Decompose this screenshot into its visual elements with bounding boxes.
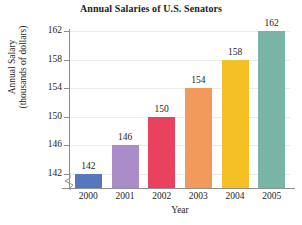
gridline (70, 174, 290, 175)
y-axis-tick-label: 158 (36, 54, 62, 64)
y-axis-tick-labels: 142146150154158162 (34, 0, 62, 225)
gridline (70, 31, 290, 32)
y-axis-tick (64, 174, 70, 175)
y-axis-tick (64, 60, 70, 61)
y-axis-tick-label: 154 (36, 82, 62, 92)
bar-value-label: 146 (106, 132, 145, 142)
y-axis-tick (64, 88, 70, 89)
bar (75, 174, 102, 188)
y-axis-tick-label: 162 (36, 25, 62, 35)
y-axis-label: Annual Salary (thousands of dollars) (0, 2, 36, 132)
x-axis-line (62, 188, 295, 189)
x-axis-tick-label: 2000 (69, 191, 108, 201)
y-axis-tick (64, 117, 70, 118)
bar-value-label: 158 (216, 47, 255, 57)
y-axis-tick-label: 146 (36, 139, 62, 149)
x-axis-tick-label: 2003 (179, 191, 218, 201)
bar (185, 88, 212, 188)
bar (148, 117, 175, 188)
gridline (70, 60, 290, 61)
bar (258, 31, 285, 188)
x-axis-tick-label: 2001 (106, 191, 145, 201)
bar-chart: Annual Salaries of U.S. Senators Annual … (0, 0, 302, 225)
plot-area: 142146150154158162 (70, 31, 290, 188)
x-axis-tick-label: 2002 (142, 191, 181, 201)
bar-value-label: 162 (252, 18, 291, 28)
y-axis-tick (64, 145, 70, 146)
y-axis-tick-label: 150 (36, 111, 62, 121)
gridline (70, 145, 290, 146)
y-axis-label-line-2: (thousands of dollars) (18, 26, 29, 109)
bar (112, 145, 139, 188)
bar-value-label: 142 (69, 161, 108, 171)
gridline (70, 117, 290, 118)
x-axis-label: Year (70, 205, 290, 215)
bar (222, 60, 249, 188)
x-axis-tick-label: 2005 (252, 191, 291, 201)
gridline (70, 88, 290, 89)
bar-value-label: 150 (142, 104, 181, 114)
y-axis-tick-label: 142 (36, 168, 62, 178)
y-axis-label-line-1: Annual Salary (7, 40, 18, 95)
x-axis-tick-label: 2004 (216, 191, 255, 201)
bar-value-label: 154 (179, 75, 218, 85)
y-axis-tick (64, 31, 70, 32)
